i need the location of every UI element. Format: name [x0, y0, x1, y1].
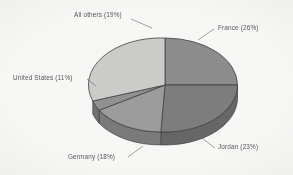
slice-label-all-others: All others (19%) — [74, 11, 122, 18]
pie-chart-figure: All others (19%) France (26%) Jordan (23… — [0, 0, 293, 175]
pie-top-face — [88, 38, 237, 132]
leader-line-france — [198, 29, 214, 40]
slice-label-united-states: United States (11%) — [13, 74, 73, 81]
leader-line-germany — [128, 146, 143, 157]
slice-label-germany: Germany (18%) — [68, 153, 115, 160]
leader-line-jordan — [202, 138, 215, 148]
slice-france — [165, 38, 238, 85]
slice-jordan — [161, 85, 238, 132]
leader-line-all-others — [131, 19, 152, 28]
slice-label-jordan: Jordan (23%) — [218, 143, 258, 150]
slice-label-france: France (26%) — [218, 24, 259, 31]
